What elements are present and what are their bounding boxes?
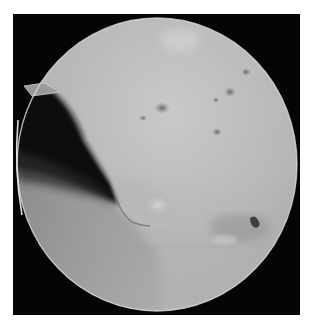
field-of-view-circle	[0, 0, 311, 322]
arthroscopic-image	[0, 0, 311, 322]
